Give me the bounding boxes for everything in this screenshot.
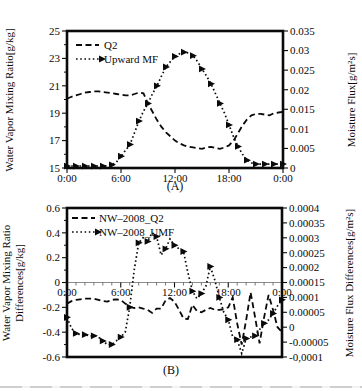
right-tick-label: 0.03 (290, 44, 310, 56)
panel-b-left-axis-title-line1: Water Vapor Mixing Ratio (0, 224, 12, 341)
series-triangle-marker (261, 320, 268, 327)
series-q2-line (67, 91, 283, 149)
left-tick-label: -0.2 (43, 301, 60, 313)
legend-label: Q2 (104, 39, 117, 51)
right-tick-label: 0.0004 (289, 202, 320, 214)
series-triangle-marker (136, 118, 143, 125)
panel-a-left-axis-title: Water Vapor Mixing Ratio[g/kg] (3, 28, 15, 171)
series-triangle-marker (271, 161, 278, 168)
left-tick-label: 15 (49, 162, 61, 174)
right-tick-label: 0 (290, 162, 296, 174)
right-tick-label: 0.015 (290, 103, 315, 115)
series-upward-mf-line (67, 52, 283, 166)
panel-a-right-axis-title: Moisture Flux[g/m²s] (345, 53, 357, 148)
figure: Water Vapor Mixing Ratio[g/kg] Moisture … (0, 0, 362, 391)
right-tick-label: 0.00015 (289, 276, 325, 288)
series-triangle-marker (109, 341, 116, 348)
right-tick-label: -0.00005 (289, 336, 329, 348)
legend-label: Upward MF (104, 53, 158, 65)
right-tick-label: 0 (289, 321, 295, 333)
series-triangle-marker (189, 288, 196, 295)
x-tick-label: 6:00 (111, 286, 131, 298)
right-tick-label: 0.01 (290, 123, 309, 135)
series-triangle-marker (91, 332, 98, 339)
x-tick-label: 12:00 (162, 286, 188, 298)
left-tick-label: 0.6 (46, 202, 60, 214)
page-bottom-rule (0, 386, 362, 388)
left-tick-label: 0.4 (46, 227, 60, 239)
right-tick-label: 0.0001 (289, 291, 319, 303)
left-tick-label: 0.2 (46, 251, 60, 263)
series-triangle-marker (244, 157, 251, 164)
series-triangle-marker (163, 64, 170, 71)
series-triangle-marker (243, 335, 250, 342)
series-triangle-marker (127, 141, 134, 148)
right-tick-label: 0.0002 (289, 261, 319, 273)
left-tick-label: -0.4 (43, 326, 61, 338)
series-triangle-marker (226, 122, 233, 129)
left-tick-label: 17 (49, 134, 61, 146)
series-triangle-marker (118, 153, 125, 160)
series-triangle-marker (127, 304, 134, 311)
panel-a-chart: Water Vapor Mixing Ratio[g/kg] Moisture … (0, 0, 362, 195)
panel-b-right-axis-title: Moisture Flux Differences[g/m²s] (343, 209, 355, 358)
x-tick-label: 0:00 (57, 172, 77, 184)
series-triangle-marker (253, 161, 260, 168)
x-tick-label: 18:00 (216, 172, 242, 184)
series-triangle-marker (235, 143, 242, 150)
right-tick-label: 0.0003 (289, 232, 320, 244)
series-triangle-marker (73, 330, 80, 337)
left-tick-label: 0 (55, 276, 61, 288)
right-tick-label: 0.02 (290, 84, 309, 96)
x-tick-label: 6:00 (111, 172, 131, 184)
left-tick-label: -0.6 (43, 351, 61, 363)
x-tick-label: 12:00 (162, 172, 188, 184)
legend-label: NW–2008_UMF (99, 226, 174, 238)
panel-b-chart: 0:006:0012:0018:000:000.60.40.20-0.2-0.4… (0, 195, 362, 391)
left-tick-label: 23 (49, 52, 61, 64)
series-triangle-marker (118, 334, 125, 341)
series-triangle-marker (207, 263, 214, 270)
series-triangle-marker (172, 53, 179, 60)
right-tick-label: 0.00025 (289, 247, 325, 259)
right-tick-label: 0.035 (290, 25, 315, 37)
panel-b-caption: (B) (163, 363, 179, 377)
series-triangle-marker (181, 49, 188, 56)
right-tick-label: 0.025 (290, 64, 315, 76)
right-tick-label: 0.00005 (289, 306, 325, 318)
series-triangle-marker (82, 331, 89, 338)
series-triangle-marker (198, 290, 205, 297)
series-triangle-marker (225, 316, 232, 323)
left-tick-label: 25 (49, 25, 61, 37)
series-triangle-marker (172, 242, 179, 249)
legend-label: NW–2008_Q2 (99, 212, 164, 224)
right-tick-label: -0,0001 (289, 351, 323, 363)
left-tick-label: 21 (49, 80, 60, 92)
series-triangle-marker (262, 161, 269, 168)
series-triangle-marker (145, 100, 152, 107)
panel-b-left-axis-title-line2: Differences[g/kg] (13, 244, 25, 322)
left-tick-label: 19 (49, 107, 61, 119)
right-tick-label: 0.00035 (289, 217, 325, 229)
series-triangle-marker (190, 52, 197, 59)
plot-frame (67, 31, 283, 168)
right-tick-label: 0.005 (290, 142, 315, 154)
